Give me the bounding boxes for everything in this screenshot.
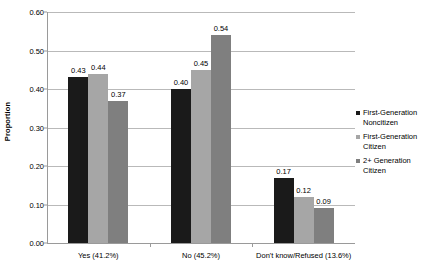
- bar-chart: Proportion 0.000.100.200.300.400.500.60 …: [0, 0, 426, 272]
- x-axis-line: [47, 243, 355, 244]
- bar: [274, 178, 294, 243]
- y-axis-tick-mark: [44, 243, 47, 244]
- bar-value-label: 0.40: [174, 78, 189, 87]
- y-axis-tick-label: 0.40: [16, 85, 44, 94]
- legend-item: First-Generation Citizen: [356, 132, 426, 151]
- y-axis-tick-label: 0.50: [16, 46, 44, 55]
- bar-value-label: 0.17: [276, 167, 291, 176]
- bar-value-label: 0.37: [111, 90, 126, 99]
- y-axis-tick-label: 0.20: [16, 162, 44, 171]
- bar: [88, 74, 108, 243]
- y-axis-tick-mark: [44, 204, 47, 205]
- x-axis-tick-mark: [252, 243, 253, 247]
- y-axis-tick-mark: [44, 50, 47, 51]
- y-axis-tick-label: 0.00: [16, 239, 44, 248]
- legend-item: 2+ Generation Citizen: [356, 156, 426, 175]
- bar-value-label: 0.09: [316, 197, 331, 206]
- chart-legend: First-Generation NoncitizenFirst-Generat…: [356, 108, 426, 180]
- bar-value-label: 0.44: [91, 63, 106, 72]
- bar: [314, 208, 334, 243]
- y-axis-tick-label: 0.60: [16, 8, 44, 17]
- x-axis-category-label: Yes (41.2%): [78, 251, 119, 260]
- legend-label: First-Generation Noncitizen: [363, 108, 426, 127]
- legend-label: 2+ Generation Citizen: [363, 156, 426, 175]
- bar-value-label: 0.45: [194, 59, 209, 68]
- bar-value-label: 0.43: [71, 66, 86, 75]
- x-axis-category-label: Don't know/Refused (13.6%): [256, 251, 351, 260]
- bar: [294, 197, 314, 243]
- x-axis-category-labels: Yes (41.2%)No (45.2%)Don't know/Refused …: [47, 248, 355, 268]
- y-axis-tick-label: 0.30: [16, 123, 44, 132]
- bar: [211, 35, 231, 243]
- bar: [68, 77, 88, 243]
- legend-swatch-icon: [356, 111, 360, 115]
- bar: [191, 70, 211, 243]
- y-axis-tick-labels: 0.000.100.200.300.400.500.60: [14, 0, 44, 272]
- legend-item: First-Generation Noncitizen: [356, 108, 426, 127]
- x-axis-category-label: No (45.2%): [182, 251, 220, 260]
- y-axis-tick-mark: [44, 12, 47, 13]
- y-axis-title-text: Proportion: [4, 102, 13, 141]
- y-axis-tick-mark: [44, 127, 47, 128]
- legend-swatch-icon: [356, 135, 360, 139]
- y-axis-tick-mark: [44, 89, 47, 90]
- bar-value-label: 0.54: [214, 24, 229, 33]
- bar: [108, 101, 128, 243]
- y-axis-title: Proportion: [1, 0, 15, 243]
- y-axis-tick-label: 0.10: [16, 200, 44, 209]
- bar: [171, 89, 191, 243]
- legend-swatch-icon: [356, 159, 360, 163]
- y-axis-tick-mark: [44, 166, 47, 167]
- bars-layer: 0.430.440.370.400.450.540.170.120.09: [47, 12, 355, 243]
- legend-label: First-Generation Citizen: [363, 132, 426, 151]
- bar-value-label: 0.12: [296, 186, 311, 195]
- x-axis-tick-mark: [150, 243, 151, 247]
